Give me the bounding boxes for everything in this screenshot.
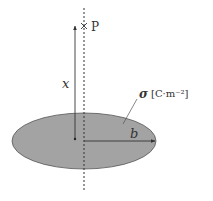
units-label: [C·m⁻²] — [151, 88, 189, 99]
distance-label: x — [62, 76, 70, 91]
sigma-label: σ — [139, 87, 148, 101]
point-label: P — [91, 20, 99, 34]
radius-label: b — [130, 126, 138, 141]
disk-center-dot — [74, 138, 76, 140]
disk-diagram: P x σ [C·m⁻²] b — [0, 0, 213, 201]
